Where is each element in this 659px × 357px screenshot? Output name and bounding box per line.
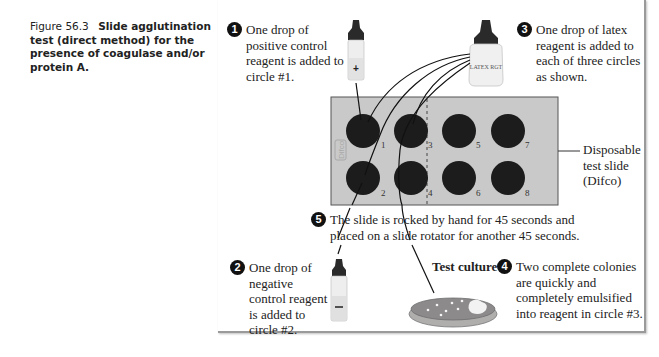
step-number-badge: 4 [497, 259, 512, 274]
step-text: The slide is rocked by hand for 45 secon… [311, 212, 611, 243]
step-number-badge: 2 [230, 260, 245, 275]
test-culture-label: Test culture [432, 259, 497, 275]
circle-2 [346, 161, 380, 195]
step-4: 4 Two complete colonies are quickly and … [497, 259, 647, 321]
step-number-badge: 5 [311, 212, 326, 227]
circle-6 [442, 161, 476, 195]
slide-brand-label: Difco [337, 140, 346, 159]
positive-symbol: + [353, 63, 359, 74]
svg-text:8: 8 [525, 188, 530, 198]
step-5: 5 The slide is rocked by hand for 45 sec… [311, 212, 611, 243]
svg-text:2: 2 [381, 188, 386, 198]
step-2: 2 One drop of negative control reagent i… [230, 260, 330, 338]
circle-5 [442, 114, 476, 148]
circle-7 [491, 114, 525, 148]
test-slide: Difco 1 2 3 4 5 6 7 8 [331, 97, 580, 205]
svg-text:3: 3 [428, 140, 433, 150]
slide-label: Disposable test slide (Difco) [583, 142, 653, 189]
step-3: 3 One drop of latex reagent is added to … [517, 22, 645, 84]
circle-1 [346, 114, 380, 148]
latex-bottle-label: LATEX RGT [470, 64, 503, 70]
svg-text:5: 5 [476, 140, 481, 150]
step-text: One drop of positive control reagent is … [227, 22, 347, 84]
step-text: One drop of negative control reagent is … [230, 260, 330, 338]
latex-reagent-bottle: LATEX RGT [469, 20, 503, 86]
step-number-badge: 1 [227, 22, 242, 37]
negative-control-bottle [331, 259, 347, 321]
test-culture-dish [409, 298, 497, 327]
circle-8 [491, 161, 525, 195]
step-number-badge: 3 [517, 22, 532, 37]
svg-text:4: 4 [428, 188, 433, 198]
svg-text:7: 7 [525, 140, 530, 150]
svg-text:6: 6 [476, 188, 481, 198]
positive-control-bottle: + [348, 20, 364, 80]
step-text: One drop of latex reagent is added to ea… [517, 22, 645, 84]
step-text: Two complete colonies are quickly and co… [497, 259, 647, 321]
svg-text:1: 1 [381, 140, 386, 150]
step-1: 1 One drop of positive control reagent i… [227, 22, 347, 84]
